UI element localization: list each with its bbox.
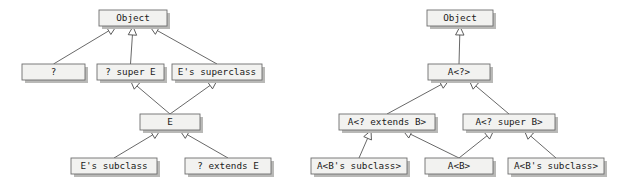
uml-inheritance-diagram: Object?? super EE's superclassEE's subcl… xyxy=(0,0,622,188)
class-node-label: ? extends E xyxy=(197,160,259,171)
edge-line xyxy=(359,138,368,158)
inheritance-edge xyxy=(170,81,217,115)
class-node[interactable]: E's superclass xyxy=(172,64,265,83)
class-node[interactable]: E xyxy=(140,114,203,133)
class-node[interactable]: A<? extends B> xyxy=(339,114,438,133)
class-node[interactable]: ? xyxy=(22,64,88,83)
inheritance-edge xyxy=(128,27,136,65)
class-node[interactable]: A<?> xyxy=(428,64,493,83)
class-node[interactable]: ? super E xyxy=(97,64,167,83)
class-node-label: ? super E xyxy=(105,66,155,77)
edge-line xyxy=(54,31,109,64)
class-node-label: ? xyxy=(51,66,57,77)
edge-line xyxy=(476,86,509,114)
class-node-label: A<B's subclass> xyxy=(317,160,401,171)
class-node-label: A<? super B> xyxy=(475,116,543,127)
class-node[interactable]: A<B's subclass> xyxy=(311,158,410,177)
inheritance-edge xyxy=(359,131,371,159)
class-node-label: A<B's subclass> xyxy=(514,160,598,171)
class-node[interactable]: E's subclass xyxy=(71,158,160,177)
class-node[interactable]: Object xyxy=(427,10,496,29)
uml-diagram-canvas: Object?? super EE's superclassEE's subcl… xyxy=(0,0,622,188)
edge-line xyxy=(459,35,460,64)
nodes-layer: Object?? super EE's superclassEE's subcl… xyxy=(22,10,607,177)
edge-line xyxy=(387,85,441,114)
class-node[interactable]: A<B> xyxy=(425,158,496,177)
inheritance-edge xyxy=(387,81,449,115)
edge-line xyxy=(170,85,210,114)
edge-line xyxy=(187,135,228,158)
class-node[interactable]: Object xyxy=(99,10,170,29)
class-node[interactable]: A<B's subclass> xyxy=(508,158,607,177)
inheritance-edge xyxy=(403,130,459,158)
edge-line xyxy=(114,135,153,158)
inheritance-edge xyxy=(524,131,556,159)
class-node-label: E's superclass xyxy=(178,66,256,77)
edge-line xyxy=(131,35,133,64)
inheritance-edge xyxy=(131,81,171,115)
edge-line xyxy=(157,31,217,64)
class-node-label: E's subclass xyxy=(80,160,147,171)
class-node[interactable]: ? extends E xyxy=(185,158,274,177)
edge-line xyxy=(137,86,170,114)
edges-layer xyxy=(54,27,557,159)
class-node-label: A<B> xyxy=(448,160,471,171)
inheritance-edge xyxy=(114,131,160,159)
class-node[interactable]: A<? super B> xyxy=(463,114,558,133)
inheritance-edge xyxy=(469,81,509,115)
edge-line xyxy=(411,134,459,158)
inheritance-edge xyxy=(456,27,464,65)
inheritance-edge xyxy=(180,131,228,159)
edge-line xyxy=(459,136,487,158)
inheritance-edge xyxy=(150,27,217,65)
class-node-label: A<? extends B> xyxy=(348,116,427,127)
class-node-label: A<?> xyxy=(448,66,471,77)
class-node-label: Object xyxy=(116,12,150,23)
class-node-label: Object xyxy=(443,12,477,23)
class-node-label: E xyxy=(167,116,173,127)
inheritance-edge xyxy=(54,27,117,65)
edge-line xyxy=(531,136,556,158)
inheritance-edge xyxy=(459,131,494,159)
